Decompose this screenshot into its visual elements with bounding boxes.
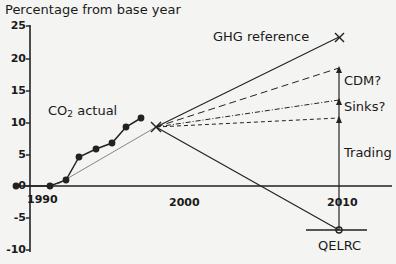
x-tick-2010: 2010 <box>327 196 358 209</box>
x-marker-ghg <box>335 33 344 42</box>
arrow-up-icon <box>336 98 342 105</box>
y-tick-0: 0 <box>0 179 26 192</box>
co2-actual-label: CO2 actual <box>48 103 117 119</box>
y-axis-title: Percentage from base year <box>5 2 181 17</box>
y-tick-10: 10 <box>0 116 26 129</box>
cdm-label: CDM? <box>344 73 381 88</box>
x-tick-2000: 2000 <box>169 196 200 209</box>
trading-label: Trading <box>344 145 392 160</box>
trend-line <box>58 127 156 184</box>
co2-actual-markers <box>13 115 145 190</box>
chart-plot <box>0 0 396 264</box>
x-tick-1990: 1990 <box>27 193 58 206</box>
y-tick-minus5: -5 <box>0 211 26 224</box>
y-tick-25: 25 <box>0 19 26 32</box>
qelrc-label: QELRC <box>318 238 361 253</box>
co2-actual-line <box>16 118 141 186</box>
qelrc-line <box>156 127 339 230</box>
arrow-up-icon <box>336 116 342 123</box>
sinks-label: Sinks? <box>344 99 385 114</box>
cdm-line <box>156 68 339 127</box>
y-tick-minus10: -10 <box>0 243 26 256</box>
y-tick-15: 15 <box>0 84 26 97</box>
y-tick-5: 5 <box>0 148 26 161</box>
y-tick-20: 20 <box>0 52 26 65</box>
ghg-reference-label: GHG reference <box>213 29 309 44</box>
arrow-up-icon <box>336 66 342 73</box>
